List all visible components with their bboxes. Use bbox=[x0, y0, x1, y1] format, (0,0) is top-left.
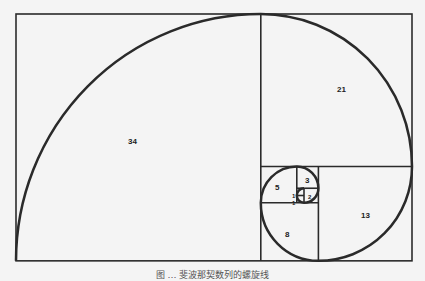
label-2: 2 bbox=[308, 194, 312, 200]
spiral bbox=[16, 14, 412, 261]
label-1a: 1 bbox=[292, 193, 296, 199]
figure-caption: 图 … 斐波那契数列的螺旋线 bbox=[0, 268, 425, 281]
label-8: 8 bbox=[285, 230, 290, 239]
label-5: 5 bbox=[275, 183, 280, 192]
outer-rect bbox=[16, 14, 412, 261]
label-21: 21 bbox=[337, 85, 346, 94]
label-34: 34 bbox=[128, 137, 137, 146]
label-13: 13 bbox=[361, 211, 370, 220]
label-3: 3 bbox=[305, 176, 310, 185]
